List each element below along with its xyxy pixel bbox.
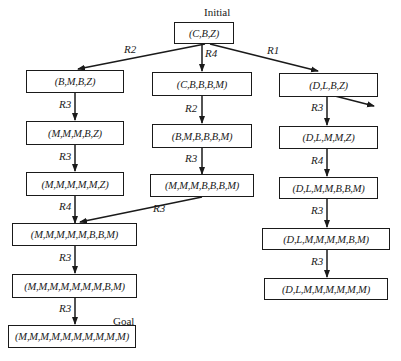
rule-label-n2-n5: R2 [185,102,197,114]
node-n6: (D,L,M,M,Z) [279,126,378,149]
rule-label-n10-n12: R3 [59,251,71,263]
node-n2: (C,B,B,B,M) [152,72,252,96]
rule-label-n1-n4: R3 [59,98,71,110]
rule-label-n8-n10: R3 [153,202,165,214]
rule-label-n11-n13: R3 [311,255,323,267]
node-n7: (M,M,M,M,M,Z) [26,172,124,196]
search-tree-diagram: Initial Goal R2 R4 R1 R3 R2 R3 R3 R3 R4 … [0,0,401,361]
node-n8: (M,M,M,B,B,B,M) [150,174,254,197]
rule-label-n5-n8: R3 [185,152,197,164]
node-n11: (D,L,M,M,M,M,B,M) [262,228,390,250]
rule-label-n0-n2: R4 [205,47,217,59]
rule-label-n6-n9: R4 [311,154,323,166]
rule-label-n4-n7: R3 [59,150,71,162]
rule-label-n12-n14: R3 [59,302,71,314]
rule-label-n0-n1: R2 [124,43,136,55]
node-n10: (M,M,M,M,M,B,B,M) [12,223,137,246]
rule-label-n7-n10: R4 [59,200,71,212]
rule-label-n0-n3: R1 [267,44,279,56]
edge-n0-n3 [210,44,318,71]
edge-n3-offscreen [335,96,374,106]
node-n5: (B,M,B,B,B,M) [152,124,252,148]
node-n12: (M,M,M,M,M,M,M,B,M) [12,274,137,298]
rule-label-n3-n6: R3 [311,101,323,113]
node-n4: (M,M,M,B,Z) [26,121,124,145]
node-goal: (M,M,M,M,M,M,M,M,M,M) [8,325,136,348]
node-n13: (D,L,M,M,M,M,M,M) [264,278,388,300]
rule-label-n9-n11: R3 [311,204,323,216]
node-n1: (B,M,B,Z) [26,70,124,93]
node-initial: (C,B,Z) [174,22,234,44]
edge-n0-n1 [78,44,205,69]
edge-n8-n10 [80,197,202,222]
initial-annotation: Initial [204,6,230,18]
node-n9: (D,L,M,M,B,B,M) [279,177,378,199]
node-n3: (D,L,B,Z) [279,73,378,97]
